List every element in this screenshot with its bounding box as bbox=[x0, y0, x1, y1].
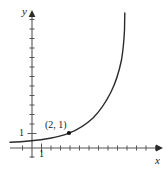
graph-figure: y x 1 1 (2, 1) bbox=[0, 0, 168, 177]
x-axis-arrow-icon bbox=[156, 145, 163, 152]
y-axis-label: y bbox=[22, 6, 27, 17]
x-axis bbox=[10, 144, 163, 153]
exponential-curve bbox=[10, 13, 125, 142]
x-tick-label-one: 1 bbox=[39, 149, 44, 159]
point-marker bbox=[67, 131, 71, 135]
plot-canvas bbox=[0, 0, 168, 177]
y-axis-arrow-icon bbox=[29, 10, 36, 17]
y-tick-label-one: 1 bbox=[19, 128, 24, 138]
point-coordinate-label: (2, 1) bbox=[45, 120, 67, 130]
x-axis-label: x bbox=[155, 155, 160, 166]
y-axis bbox=[28, 10, 37, 158]
